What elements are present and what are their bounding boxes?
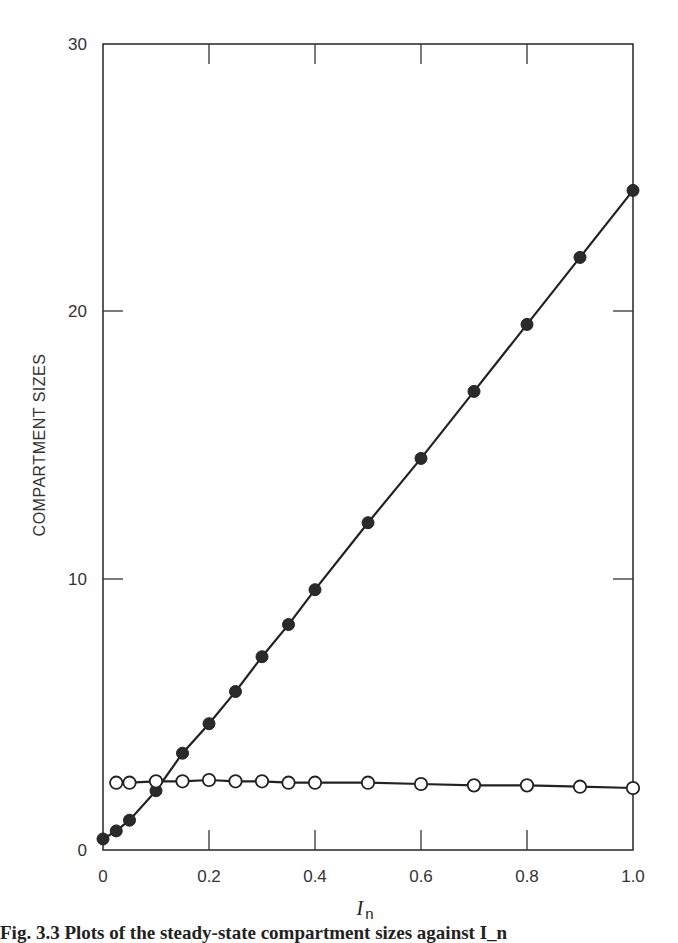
series-markers <box>97 184 639 845</box>
open-circle-marker <box>415 778 427 790</box>
chart: 0102030 00.20.40.60.81.0 COMPARTMENT SIZ… <box>0 0 678 943</box>
filled-circle-marker <box>468 385 480 397</box>
axes-box <box>103 44 633 850</box>
series-line <box>103 190 633 839</box>
y-axis-label: COMPARTMENT SIZES <box>31 354 48 537</box>
filled-circle-marker <box>574 251 586 263</box>
open-circle-marker <box>203 774 215 786</box>
x-tick-label: 0.4 <box>303 867 327 886</box>
filled-circle-marker <box>256 651 268 663</box>
x-tick-labels: 00.20.40.60.81.0 <box>98 867 645 886</box>
filled-circle-marker <box>124 814 136 826</box>
filled-circle-marker <box>203 718 215 730</box>
open-circle-marker <box>521 779 533 791</box>
open-circle-marker <box>176 775 188 787</box>
x-tick-label: 1.0 <box>621 867 645 886</box>
open-circle-marker <box>468 779 480 791</box>
y-tick-label: 0 <box>78 841 87 860</box>
x-tick-label: 0.6 <box>409 867 433 886</box>
y-tick-label: 30 <box>68 35 87 54</box>
open-circle-marker <box>229 775 241 787</box>
x-tick-label: 0 <box>98 867 107 886</box>
filled-circle-marker <box>309 584 321 596</box>
x-axis-label-main: I <box>355 897 364 919</box>
open-circle-marker <box>627 782 639 794</box>
plot-frame <box>103 44 633 850</box>
filled-circle-marker <box>521 318 533 330</box>
filled-circle-marker <box>177 747 189 759</box>
filled-circle-marker <box>415 452 427 464</box>
x-axis-label-sub: n <box>365 905 373 922</box>
y-tick-label: 20 <box>68 302 87 321</box>
filled-circle-marker <box>627 184 639 196</box>
x-tick-label: 0.8 <box>515 867 539 886</box>
open-circle-marker <box>256 775 268 787</box>
filled-circle-marker <box>362 517 374 529</box>
figure-caption: Fig. 3.3 Plots of the steady-state compa… <box>0 922 678 943</box>
series-lines <box>103 190 633 839</box>
x-axis-label: In <box>355 897 373 922</box>
y-tick-label: 10 <box>68 570 87 589</box>
x-tick-label: 0.2 <box>197 867 221 886</box>
open-circle-marker <box>282 776 294 788</box>
filled-circle-marker <box>110 825 122 837</box>
open-circle-marker <box>110 776 122 788</box>
open-circle-marker <box>574 781 586 793</box>
filled-circle-marker <box>97 833 109 845</box>
open-circle-marker <box>123 776 135 788</box>
open-circle-marker <box>362 776 374 788</box>
y-tick-labels: 0102030 <box>68 35 87 860</box>
axis-ticks <box>103 44 633 850</box>
open-circle-marker <box>150 775 162 787</box>
open-circle-marker <box>309 776 321 788</box>
filled-circle-marker <box>283 619 295 631</box>
filled-circle-marker <box>230 686 242 698</box>
